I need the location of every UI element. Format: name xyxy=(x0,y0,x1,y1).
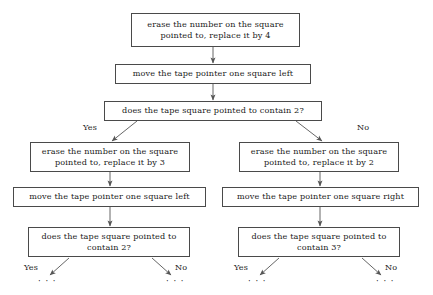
continuation-dots-left-yes: · · · xyxy=(38,277,57,285)
edge-n3-n4-yes xyxy=(112,121,137,141)
continuation-dots-left-no: · · · xyxy=(166,277,185,285)
edge-n6-no xyxy=(152,258,171,275)
node-move-pointer-right[interactable]: move the tape pointer one square right xyxy=(222,187,419,207)
edge-n3-n7-no xyxy=(296,121,322,141)
edge-label-yes-top: Yes xyxy=(83,122,97,132)
edge-n9-no xyxy=(362,258,381,275)
edge-label-no-right: No xyxy=(385,262,397,272)
continuation-dots-right-yes: · · · xyxy=(248,277,267,285)
node-erase-replace-3[interactable]: erase the number on the square pointed t… xyxy=(30,142,190,172)
flowchart-canvas: erase the number on the square pointed t… xyxy=(0,0,433,295)
node-move-pointer-left-2[interactable]: move the tape pointer one square left xyxy=(13,187,206,207)
edge-label-yes-right: Yes xyxy=(234,262,248,272)
node-decision-contain-2-bottom[interactable]: does the tape square pointed to contain … xyxy=(28,227,190,257)
node-decision-contain-3[interactable]: does the tape square pointed to contain … xyxy=(238,227,400,257)
edge-label-no-left: No xyxy=(175,262,187,272)
node-decision-contain-2-top[interactable]: does the tape square pointed to contain … xyxy=(104,101,322,121)
node-move-pointer-left-1[interactable]: move the tape pointer one square left xyxy=(115,64,311,84)
node-erase-replace-4[interactable]: erase the number on the square pointed t… xyxy=(131,13,300,47)
continuation-dots-right-no: · · · xyxy=(376,277,395,285)
edge-label-yes-left: Yes xyxy=(24,262,38,272)
edge-n6-yes xyxy=(50,258,69,275)
edge-n9-yes xyxy=(260,258,279,275)
node-erase-replace-2[interactable]: erase the number on the square pointed t… xyxy=(239,142,399,172)
edge-label-no-top: No xyxy=(357,122,369,132)
